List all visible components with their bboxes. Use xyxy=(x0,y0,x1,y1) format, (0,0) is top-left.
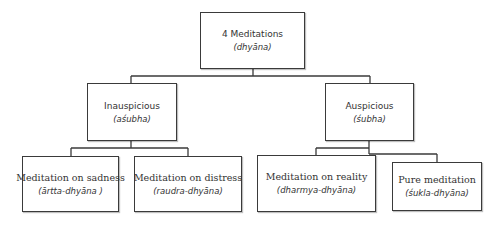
distress-title: Meditation on distress xyxy=(134,171,242,185)
pure-title: Pure meditation xyxy=(398,173,476,187)
inauspicious-subtitle: (aśubha) xyxy=(113,113,151,126)
sadness-subtitle: (ārtta-dhyāna ) xyxy=(38,185,103,198)
pure-subtitle: (śukla-dhyāna) xyxy=(405,187,469,200)
inauspicious-node: Inauspicious (aśubha) xyxy=(87,83,177,141)
pure-node: Pure meditation (śukla-dhyāna) xyxy=(392,162,482,211)
auspicious-node: Auspicious (śubha) xyxy=(325,83,414,141)
reality-node: Meditation on reality (dharmya-dhyāna) xyxy=(257,155,376,212)
distress-subtitle: (raudra-dhyāna) xyxy=(153,185,223,198)
root-node: 4 Meditations (dhyāna) xyxy=(200,12,305,69)
auspicious-title: Auspicious xyxy=(345,99,393,113)
root-title: 4 Meditations xyxy=(222,27,283,41)
reality-subtitle: (dharmya-dhyāna) xyxy=(277,184,356,197)
sadness-title: Meditation on sadness xyxy=(16,171,125,185)
reality-title: Meditation on reality xyxy=(266,170,368,184)
sadness-node: Meditation on sadness (ārtta-dhyāna ) xyxy=(22,156,119,212)
meditation-tree-diagram: 4 Meditations (dhyāna) Inauspicious (aśu… xyxy=(0,0,503,227)
auspicious-subtitle: (śubha) xyxy=(353,113,385,126)
distress-node: Meditation on distress (raudra-dhyāna) xyxy=(134,156,242,212)
inauspicious-title: Inauspicious xyxy=(104,99,160,113)
root-subtitle: (dhyāna) xyxy=(233,41,271,54)
